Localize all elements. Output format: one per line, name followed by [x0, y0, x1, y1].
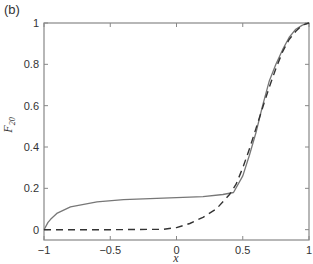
y-tick-label: 0	[33, 224, 39, 236]
x-tick-label: −1	[38, 244, 51, 256]
data-series	[44, 23, 309, 230]
series-dashed-line	[44, 23, 309, 230]
x-axis-label: x	[172, 251, 179, 264]
y-tick-label: 0.8	[24, 58, 39, 70]
y-tick-label: 0.6	[24, 100, 39, 112]
axes-box	[44, 23, 309, 240]
y-tick-label: 0.2	[24, 182, 39, 194]
y-axis-ticks: 00.20.40.60.81	[24, 17, 309, 236]
y-tick-label: 1	[33, 17, 39, 29]
x-tick-label: 1	[306, 244, 312, 256]
y-tick-label: 0.4	[24, 141, 39, 153]
y-axis-label: F20	[1, 117, 17, 133]
x-axis-ticks: −1−0.500.51	[38, 23, 312, 256]
series-solid-line	[44, 23, 309, 230]
x-tick-label: 0.5	[235, 244, 250, 256]
x-tick-label: −0.5	[99, 244, 121, 256]
line-chart: −1−0.500.51 00.20.40.60.81 x F20	[0, 0, 313, 264]
